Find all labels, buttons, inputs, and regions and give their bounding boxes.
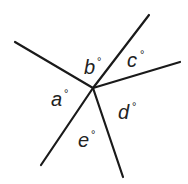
angle-label-e: e °: [78, 128, 95, 151]
svg-text:°: °: [64, 87, 68, 99]
ray-upper-left: [15, 42, 93, 88]
ray-lower-left: [41, 88, 93, 165]
svg-text:c: c: [127, 49, 137, 71]
svg-text:a: a: [51, 88, 62, 110]
angle-label-d: d °: [118, 100, 136, 123]
svg-text:°: °: [91, 128, 95, 140]
angle-diagram: a ° b ° c ° d ° e °: [0, 0, 188, 184]
svg-text:e: e: [78, 129, 89, 151]
angle-label-a: a °: [51, 87, 68, 110]
angle-label-b: b °: [84, 55, 101, 78]
svg-text:b: b: [84, 56, 95, 78]
svg-text:d: d: [118, 101, 130, 123]
rays: [15, 15, 180, 177]
svg-text:°: °: [132, 100, 136, 112]
svg-text:°: °: [140, 48, 144, 60]
angle-label-c: c °: [127, 48, 144, 71]
svg-text:°: °: [97, 55, 101, 67]
